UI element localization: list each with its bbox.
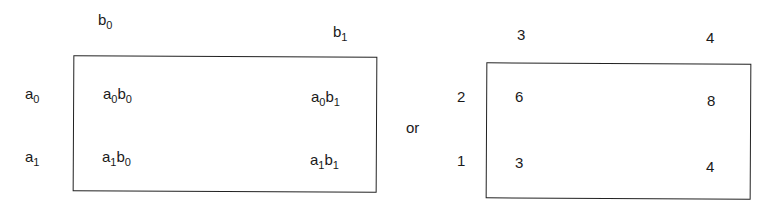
or-connector: or — [406, 120, 419, 135]
col-header-4: 4 — [706, 30, 714, 45]
col-header-3: 3 — [517, 27, 525, 42]
cell-4: 4 — [706, 159, 714, 174]
numeric-table-box — [486, 62, 752, 199]
cell-8: 8 — [707, 93, 715, 108]
symbolic-table-box — [73, 55, 378, 193]
row-header-a1: a1 — [25, 149, 39, 164]
cell-6: 6 — [515, 89, 523, 104]
row-header-2: 2 — [457, 89, 465, 104]
cell-a1b0: a1b0 — [102, 149, 131, 164]
col-header-b1: b1 — [333, 24, 347, 39]
col-header-b0: b0 — [98, 12, 112, 27]
cell-a0b1: a0b1 — [311, 89, 340, 104]
row-header-1: 1 — [457, 153, 465, 168]
cell-a0b0: a0b0 — [103, 86, 132, 101]
row-header-a0: a0 — [25, 86, 39, 101]
cell-3: 3 — [515, 155, 523, 170]
cell-a1b1: a1b1 — [310, 152, 339, 167]
